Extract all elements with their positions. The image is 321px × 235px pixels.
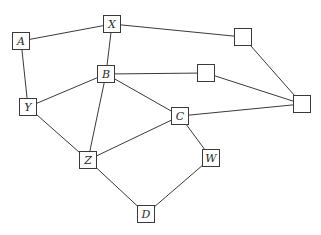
node-label: B bbox=[102, 69, 110, 80]
edge-a-x bbox=[21, 24, 112, 41]
node-w: W bbox=[202, 149, 220, 167]
edge-c-z bbox=[88, 116, 180, 160]
node-label: D bbox=[142, 209, 151, 220]
node-y: Y bbox=[19, 98, 37, 116]
node-d: D bbox=[137, 205, 155, 223]
node-u3 bbox=[293, 95, 311, 113]
node-c: C bbox=[171, 107, 189, 125]
edge-b-z bbox=[88, 74, 106, 160]
node-u2 bbox=[197, 64, 215, 82]
node-a: A bbox=[12, 32, 30, 50]
edge-x-u1 bbox=[112, 24, 243, 37]
node-label: C bbox=[176, 111, 184, 122]
edge-c-u3 bbox=[180, 104, 302, 116]
node-label: W bbox=[205, 153, 216, 164]
edge-u2-u3 bbox=[206, 73, 302, 104]
edge-b-u2 bbox=[106, 73, 206, 74]
node-label: A bbox=[17, 36, 25, 47]
node-b: B bbox=[97, 65, 115, 83]
node-x: X bbox=[103, 15, 121, 33]
node-label: Z bbox=[84, 155, 92, 166]
edge-b-y bbox=[28, 74, 106, 107]
graph-edges bbox=[0, 0, 321, 235]
node-label: Y bbox=[24, 102, 31, 113]
node-u1 bbox=[234, 28, 252, 46]
node-z: Z bbox=[79, 151, 97, 169]
node-label: X bbox=[108, 19, 116, 30]
edge-b-c bbox=[106, 74, 180, 116]
